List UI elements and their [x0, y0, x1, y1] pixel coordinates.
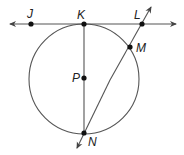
label-m: M — [136, 41, 146, 55]
point-p — [81, 75, 86, 80]
label-k: K — [77, 8, 86, 22]
label-n: N — [88, 135, 97, 149]
geometry-diagram: J K L M P N — [0, 0, 184, 155]
label-p: P — [72, 71, 80, 85]
point-m — [127, 44, 132, 49]
label-l: L — [134, 8, 141, 22]
label-j: J — [26, 7, 34, 21]
point-n — [81, 130, 86, 135]
point-k — [81, 21, 86, 26]
point-j — [28, 21, 33, 26]
point-l — [139, 21, 144, 26]
